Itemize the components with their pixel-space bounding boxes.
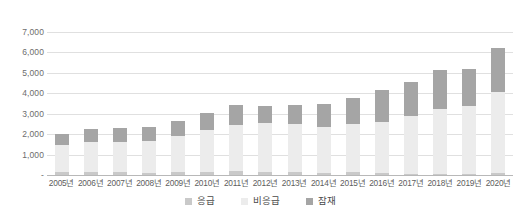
bar-segment-비응급: [258, 123, 272, 171]
bar-segment-응급: [462, 174, 476, 175]
gridline-0: [47, 175, 513, 176]
bar-segment-응급: [200, 172, 214, 175]
bar-segment-비응급: [433, 109, 447, 174]
bar-segment-비응급: [229, 125, 243, 172]
bar-segment-응급: [142, 173, 156, 175]
bar-2005년[interactable]: [55, 134, 69, 175]
bar-segment-응급: [433, 174, 447, 175]
legend-swatch-icon: [306, 198, 313, 205]
bar-segment-응급: [171, 172, 185, 175]
bar-segment-비응급: [491, 92, 505, 173]
bar-segment-잠재: [288, 105, 302, 123]
bar-2012년[interactable]: [258, 106, 272, 175]
bar-2011년[interactable]: [229, 105, 243, 175]
bar-segment-잠재: [142, 127, 156, 140]
y-tick-label: -: [4, 171, 44, 179]
y-tick-label: 4,000: [4, 89, 44, 97]
bar-segment-응급: [375, 173, 389, 175]
bar-segment-응급: [84, 172, 98, 175]
legend-item-응급[interactable]: 응급: [185, 196, 215, 206]
legend-label: 잠재: [318, 196, 336, 206]
bar-segment-응급: [346, 172, 360, 175]
bar-segment-비응급: [462, 106, 476, 173]
bar-segment-비응급: [288, 124, 302, 172]
bar-2019년[interactable]: [462, 69, 476, 175]
legend-item-잠재[interactable]: 잠재: [306, 196, 336, 206]
y-tick-label: 6,000: [4, 48, 44, 56]
bar-segment-잠재: [113, 128, 127, 142]
bar-2020년[interactable]: [491, 48, 505, 175]
bar-segment-응급: [288, 172, 302, 175]
y-tick-label: 1,000: [4, 151, 44, 159]
y-tick-label: 7,000: [4, 28, 44, 36]
legend-swatch-icon: [185, 198, 192, 205]
bar-segment-비응급: [113, 142, 127, 173]
bar-segment-응급: [404, 174, 418, 175]
bar-segment-잠재: [433, 70, 447, 108]
bar-segment-비응급: [55, 145, 69, 172]
bar-segment-잠재: [462, 69, 476, 106]
bar-segment-비응급: [142, 141, 156, 173]
chart-legend: 응급비응급잠재: [0, 196, 521, 206]
bar-segment-응급: [229, 171, 243, 175]
legend-label: 비응급: [253, 196, 280, 206]
bar-segment-잠재: [404, 82, 418, 116]
legend-item-비응급[interactable]: 비응급: [241, 196, 280, 206]
bar-segment-응급: [317, 173, 331, 175]
bar-segment-비응급: [346, 124, 360, 172]
bar-segment-비응급: [317, 127, 331, 173]
x-axis-tick-labels: 2005년2006년2007년2008년2009년2010년2011년2012년…: [47, 177, 513, 191]
stacked-bar-chart: 7,0006,0005,0004,0003,0002,0001,000- 200…: [0, 0, 521, 216]
bar-segment-응급: [55, 172, 69, 175]
bar-2014년[interactable]: [317, 104, 331, 175]
y-tick-label: 2,000: [4, 130, 44, 138]
bar-segment-잠재: [375, 90, 389, 123]
bar-2016년[interactable]: [375, 90, 389, 175]
bar-segment-잠재: [317, 104, 331, 127]
bar-segment-잠재: [84, 129, 98, 142]
bar-segment-잠재: [55, 134, 69, 145]
bar-2015년[interactable]: [346, 98, 360, 175]
bar-2010년[interactable]: [200, 113, 214, 175]
bar-segment-비응급: [200, 130, 214, 172]
bar-segment-잠재: [491, 48, 505, 92]
bar-2007년[interactable]: [113, 128, 127, 175]
bar-segment-잠재: [200, 113, 214, 130]
bar-series-group: [47, 32, 513, 175]
bar-segment-비응급: [375, 122, 389, 173]
y-tick-label: 5,000: [4, 69, 44, 77]
bar-segment-응급: [113, 172, 127, 175]
plot-area: [47, 32, 513, 175]
legend-swatch-icon: [241, 198, 248, 205]
bar-2017년[interactable]: [404, 82, 418, 175]
x-tick-label-2020년: 2020년: [480, 177, 516, 189]
bar-segment-비응급: [404, 116, 418, 174]
bar-segment-잠재: [346, 98, 360, 124]
bar-segment-응급: [491, 173, 505, 175]
bar-segment-비응급: [84, 142, 98, 172]
y-tick-label: 3,000: [4, 110, 44, 118]
bar-segment-응급: [258, 172, 272, 175]
bar-2009년[interactable]: [171, 121, 185, 175]
bar-segment-잠재: [258, 106, 272, 124]
legend-label: 응급: [197, 196, 215, 206]
bar-segment-비응급: [171, 136, 185, 172]
bar-2018년[interactable]: [433, 70, 447, 175]
bar-segment-잠재: [229, 105, 243, 124]
bar-2013년[interactable]: [288, 105, 302, 175]
bar-2008년[interactable]: [142, 127, 156, 175]
bar-segment-잠재: [171, 121, 185, 135]
bar-2006년[interactable]: [84, 129, 98, 175]
